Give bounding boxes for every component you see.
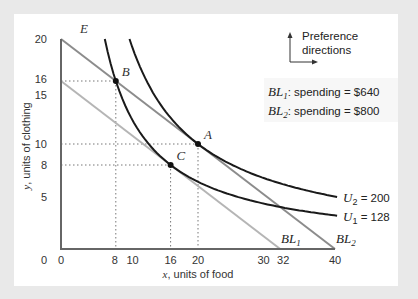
preference-text-line1: Preference xyxy=(302,30,358,42)
x-tick-label: 30 xyxy=(257,254,269,266)
y-tick-label: 5 xyxy=(41,191,47,203)
budget-label-bl2: BL2 xyxy=(336,231,356,248)
point-label-b: B xyxy=(122,64,130,79)
point-label-a: A xyxy=(203,127,212,142)
guide-lines xyxy=(61,81,198,249)
e-label: E xyxy=(79,21,88,36)
legend-bl2-text: : spending = $800 xyxy=(288,105,380,117)
legend-bl2-base: BL xyxy=(268,103,283,118)
y-tick-labels: 58101516200 xyxy=(35,33,47,266)
spending-legend: BL1: spending = $640 BL2: spending = $80… xyxy=(264,78,398,122)
x-tick-label: 32 xyxy=(277,254,289,266)
preference-directions: Preference directions xyxy=(288,30,359,65)
point-a xyxy=(195,141,201,147)
y-tick-label: 15 xyxy=(35,89,47,101)
preference-text-line2: directions xyxy=(302,44,351,56)
x-tick-label: 20 xyxy=(192,254,204,266)
y-tick-label: 16 xyxy=(35,73,47,85)
legend-bl1-base: BL xyxy=(268,84,283,99)
y-tick-label: 20 xyxy=(35,33,47,45)
x-tick-label: 10 xyxy=(126,254,138,266)
curve-label-u1: U1 = 128 xyxy=(343,209,390,226)
x-tick-label: 40 xyxy=(329,254,341,266)
x-axis-label: x, units of food xyxy=(162,268,234,280)
x-tick-labels: 08101620303240 xyxy=(58,254,341,266)
x-tick-label: 0 xyxy=(58,254,64,266)
legend-bl1-text: : spending = $640 xyxy=(288,86,380,98)
chart: 08101620303240 58101516200 ABC U2 = 200U… xyxy=(0,0,418,299)
curve-label-u2: U2 = 200 xyxy=(343,190,390,207)
x-axis-label-text: , units of food xyxy=(167,268,233,280)
budget-label-bl1: BL1 xyxy=(281,231,301,248)
point-b xyxy=(113,78,119,84)
x-tick-label: 8 xyxy=(112,254,118,266)
y-tick-label: 8 xyxy=(41,159,47,171)
origin-label: 0 xyxy=(41,254,47,266)
point-label-c: C xyxy=(177,148,186,163)
x-tick-label: 16 xyxy=(164,254,176,266)
y-axis-label-text: , units of clothing xyxy=(20,102,32,185)
point-c xyxy=(168,162,174,168)
y-axis-label: y, units of clothing xyxy=(20,102,32,190)
y-tick-label: 10 xyxy=(35,138,47,150)
indifference-curves xyxy=(105,39,337,216)
arrow-right-icon xyxy=(312,60,318,65)
arrow-up-icon xyxy=(288,32,293,38)
